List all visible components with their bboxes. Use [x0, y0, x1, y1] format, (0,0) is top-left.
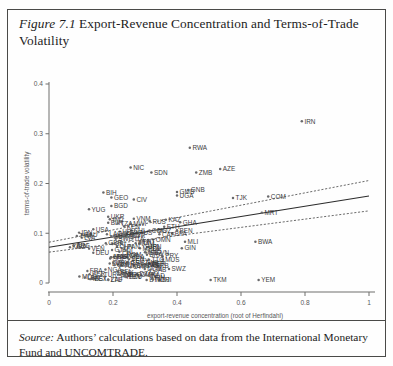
figure-frame — [7, 9, 386, 357]
source-note: Source: Authors’ calculations based on d… — [19, 330, 371, 359]
figure-page: Figure 7.1 Export-Revenue Concentration … — [0, 0, 393, 366]
source-text: Authors’ calculations based on data from… — [19, 331, 368, 358]
figure-title: Figure 7.1 Export-Revenue Concentration … — [19, 16, 369, 49]
figure-number: Figure 7.1 — [19, 16, 76, 31]
source-divider — [8, 320, 385, 321]
source-label: Source: — [19, 331, 54, 343]
